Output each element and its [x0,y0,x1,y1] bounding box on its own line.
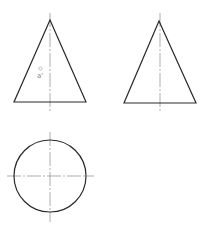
front-view: a' [14,13,86,113]
top-view [7,132,94,222]
point-a-label: a' [37,72,43,80]
drawing-canvas: a' [0,0,203,234]
side-view [124,13,196,112]
point-a-marker [39,67,42,70]
